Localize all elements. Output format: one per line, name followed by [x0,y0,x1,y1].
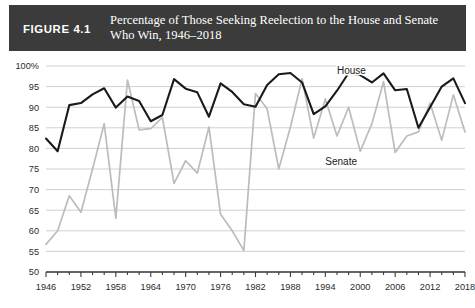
series-label-house: House [337,65,366,76]
x-axis-tick-label: 1964 [141,282,161,292]
x-axis-tick-label: 1976 [210,282,230,292]
x-axis-tick-label: 1946 [36,282,56,292]
x-axis-tick-label: 2018 [455,282,475,292]
x-axis-tick-label: 1982 [245,282,265,292]
x-axis-tick-label: 2006 [385,282,405,292]
x-axis-tick-labels: 1946195219581964197019761982198819942000… [36,282,475,292]
y-axis-tick-label: 75 [29,164,39,174]
figure-title: Percentage of Those Seeking Reelection t… [110,13,455,44]
x-axis [46,272,465,277]
series-line-senate [46,79,465,251]
figure-container: FIGURE 4.1 Percentage of Those Seeking R… [0,0,475,308]
series-label-senate: Senate [325,156,357,167]
figure-header-bar: FIGURE 4.1 Percentage of Those Seeking R… [9,5,466,51]
y-axis-tick-label: 60 [29,226,39,236]
y-axis-tick-label: 85 [29,123,39,133]
y-axis-tick-labels: 100%95908580757065605550 [16,61,40,277]
y-axis-tick-label: 65 [29,206,39,216]
line-chart-svg: 100%95908580757065605550 194619521958196… [0,52,475,308]
data-series-group [46,73,465,251]
y-axis-tick-label: 95 [29,82,39,92]
x-axis-tick-label: 1952 [71,282,91,292]
y-axis-tick-label: 50 [29,267,39,277]
series-line-house [46,73,465,151]
y-axis-tick-label: 55 [29,247,39,257]
x-axis-tick-label: 1970 [175,282,195,292]
y-axis-tick-label: 90 [29,103,39,113]
y-axis-tick-label: 100% [16,61,40,71]
chart-plot-area: 100%95908580757065605550 194619521958196… [0,52,475,308]
y-axis-tick-label: 70 [29,185,39,195]
y-axis-tick-label: 80 [29,144,39,154]
x-axis-tick-label: 1958 [106,282,126,292]
x-axis-tick-label: 2000 [350,282,370,292]
x-axis-tick-label: 1988 [280,282,300,292]
figure-number-label: FIGURE 4.1 [23,22,91,35]
x-axis-tick-label: 2012 [420,282,440,292]
x-axis-tick-label: 1994 [315,282,335,292]
